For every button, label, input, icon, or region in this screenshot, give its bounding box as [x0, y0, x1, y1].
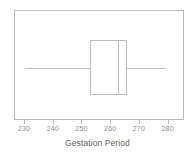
box-iqr: [90, 40, 127, 95]
x-tick-label: 270: [133, 125, 145, 132]
x-tick-mark: [81, 120, 82, 124]
median-line: [118, 40, 119, 95]
x-axis-ticks: 230240250260270280: [14, 120, 184, 126]
x-axis-title: Gestation Period: [0, 138, 195, 148]
x-tick-mark: [168, 120, 169, 124]
x-tick-label: 250: [75, 125, 87, 132]
whisker-high: [127, 68, 166, 69]
x-tick-label: 240: [47, 125, 59, 132]
plot-frame: [14, 10, 184, 120]
x-tick-label: 230: [18, 125, 30, 132]
x-tick-mark: [139, 120, 140, 124]
plot-area: [15, 11, 183, 119]
x-tick-mark: [53, 120, 54, 124]
x-tick-mark: [110, 120, 111, 124]
x-tick-mark: [24, 120, 25, 124]
x-tick-label: 260: [104, 125, 116, 132]
x-tick-label: 280: [162, 125, 174, 132]
boxplot-figure: 230240250260270280 Gestation Period: [0, 0, 195, 157]
whisker-low: [25, 68, 90, 69]
